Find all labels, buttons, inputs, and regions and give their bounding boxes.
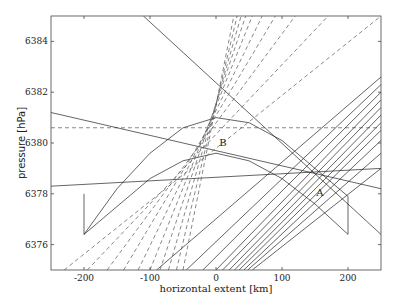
annotation-a: A xyxy=(315,187,324,198)
ray-a xyxy=(252,168,381,270)
ray-b xyxy=(87,16,328,270)
plot-lines xyxy=(51,16,381,270)
ray-b xyxy=(176,16,237,270)
y-tick-label: 6382 xyxy=(25,87,48,97)
inner-arc xyxy=(84,153,348,234)
steep-descending xyxy=(143,16,381,234)
ray-a xyxy=(244,140,381,270)
x-tick-label: -200 xyxy=(74,273,94,283)
ray-a xyxy=(239,130,381,270)
x-tick-label: -100 xyxy=(140,273,160,283)
y-tick-label: 6380 xyxy=(25,138,48,148)
ray-a xyxy=(234,123,381,270)
y-tick-label: 6378 xyxy=(25,189,48,199)
ray-a xyxy=(223,107,381,270)
y-tick-label: 6376 xyxy=(25,240,48,250)
ray-a xyxy=(216,100,381,270)
ray-b xyxy=(138,16,262,270)
chart: -200-1000100200 63766378638063826384 AB … xyxy=(0,0,403,308)
y-axis-label: pressure [hPa] xyxy=(16,107,27,179)
x-axis-label: horizontal extent [km] xyxy=(159,283,272,294)
annotation-b: B xyxy=(219,137,226,148)
x-tick-label: 100 xyxy=(273,273,290,283)
ray-a xyxy=(203,92,381,270)
x-tick-label: 0 xyxy=(213,273,219,283)
x-axis: -200-1000100200 xyxy=(74,16,357,283)
ray-b xyxy=(168,16,241,270)
plot-frame xyxy=(51,16,381,270)
ray-b xyxy=(160,16,246,270)
y-tick-label: 6384 xyxy=(25,36,48,46)
ray-a xyxy=(229,115,381,270)
x-tick-label: 200 xyxy=(339,273,356,283)
